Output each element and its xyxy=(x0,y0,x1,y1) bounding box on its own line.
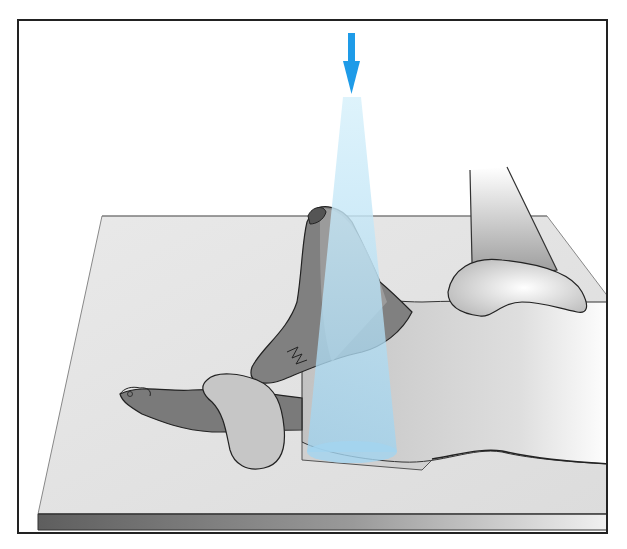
figure-frame xyxy=(17,19,608,534)
beam-direction-arrow xyxy=(343,33,360,94)
illustration xyxy=(19,21,608,534)
